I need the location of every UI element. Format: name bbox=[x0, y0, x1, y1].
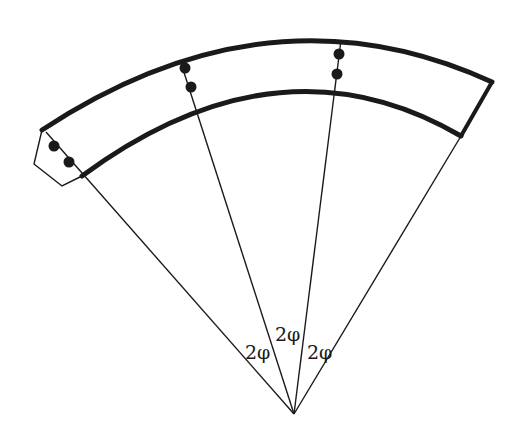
end-cap bbox=[34, 130, 82, 186]
dot bbox=[64, 157, 75, 168]
dot bbox=[49, 141, 60, 152]
right-edge bbox=[461, 82, 492, 136]
inner-arc bbox=[82, 91, 461, 176]
dots bbox=[49, 49, 345, 168]
dot bbox=[180, 63, 191, 74]
dot bbox=[186, 82, 197, 93]
dot bbox=[332, 69, 343, 80]
angle-label-left: 2φ bbox=[245, 343, 270, 362]
dot bbox=[334, 49, 345, 60]
radial-line-4 bbox=[294, 136, 461, 414]
angle-label-middle: 2φ bbox=[275, 325, 300, 344]
sector-diagram bbox=[0, 0, 524, 435]
angle-label-right: 2φ bbox=[307, 343, 332, 362]
